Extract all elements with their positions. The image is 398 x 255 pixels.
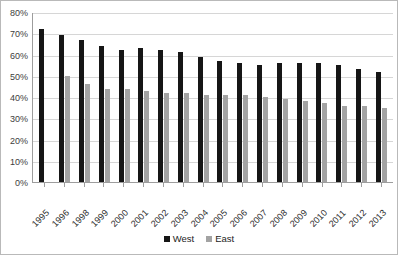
bar-group bbox=[55, 13, 75, 182]
x-axis-tick bbox=[232, 183, 252, 188]
x-axis-tick bbox=[74, 183, 94, 188]
y-axis-tick-label: 60% bbox=[10, 51, 28, 60]
plot-area bbox=[32, 13, 393, 183]
bar-west bbox=[316, 63, 321, 182]
chart-container: 80%70%60%50%40%30%20%10%0% 1995199619981… bbox=[0, 0, 398, 255]
x-axis-tick bbox=[113, 183, 133, 188]
bar-east bbox=[105, 89, 110, 183]
x-axis-tick bbox=[351, 183, 371, 188]
x-axis-ticks bbox=[32, 183, 393, 188]
bar-group bbox=[371, 13, 391, 182]
x-axis-tick bbox=[331, 183, 351, 188]
legend-swatch-east bbox=[206, 236, 212, 242]
bar-west bbox=[217, 61, 222, 182]
bar-group bbox=[332, 13, 352, 182]
y-axis-tick-label: 20% bbox=[10, 136, 28, 145]
bar-west bbox=[79, 40, 84, 182]
bar-group bbox=[114, 13, 134, 182]
legend-swatch-west bbox=[164, 236, 170, 242]
y-axis-labels: 80%70%60%50%40%30%20%10%0% bbox=[1, 13, 31, 188]
legend-entry-west[interactable]: West bbox=[164, 233, 194, 244]
x-axis-tick bbox=[371, 183, 391, 188]
bar-east bbox=[85, 84, 90, 182]
bar-east bbox=[125, 89, 130, 183]
bar-east bbox=[263, 97, 268, 182]
bar-west bbox=[356, 69, 361, 182]
x-axis-tick bbox=[153, 183, 173, 188]
bar-group bbox=[154, 13, 174, 182]
x-axis-tick-label: 1995 bbox=[30, 208, 51, 229]
chart-title bbox=[1, 0, 398, 2]
bar-group bbox=[272, 13, 292, 182]
bar-group bbox=[233, 13, 253, 182]
bar-east bbox=[382, 108, 387, 182]
bar-west bbox=[237, 63, 242, 182]
x-axis-tick bbox=[193, 183, 213, 188]
bar-east bbox=[342, 106, 347, 183]
bar-west bbox=[99, 46, 104, 182]
legend-entry-east[interactable]: East bbox=[206, 233, 234, 244]
bar-east bbox=[283, 99, 288, 182]
x-axis-tick bbox=[272, 183, 292, 188]
x-axis-tick bbox=[312, 183, 332, 188]
x-axis-tick bbox=[173, 183, 193, 188]
x-axis-tick bbox=[133, 183, 153, 188]
bar-west bbox=[138, 48, 143, 182]
bar-east bbox=[164, 93, 169, 182]
x-axis-tick bbox=[292, 183, 312, 188]
bars-layer bbox=[33, 13, 393, 182]
bar-east bbox=[322, 103, 327, 182]
x-axis-tick bbox=[54, 183, 74, 188]
bar-west bbox=[257, 65, 262, 182]
bar-west bbox=[336, 65, 341, 182]
bar-east bbox=[303, 101, 308, 182]
bar-group bbox=[173, 13, 193, 182]
y-axis-tick-label: 80% bbox=[10, 9, 28, 18]
bar-group bbox=[134, 13, 154, 182]
bar-group bbox=[94, 13, 114, 182]
bar-west bbox=[277, 63, 282, 182]
bar-east bbox=[243, 95, 248, 182]
legend-label: West bbox=[173, 233, 194, 244]
bar-group bbox=[35, 13, 55, 182]
bar-west bbox=[297, 63, 302, 182]
bar-west bbox=[119, 50, 124, 182]
legend-label: East bbox=[215, 233, 234, 244]
bar-east bbox=[65, 76, 70, 182]
bar-east bbox=[204, 95, 209, 182]
x-axis-tick bbox=[212, 183, 232, 188]
bar-west bbox=[178, 52, 183, 182]
y-axis-tick-label: 30% bbox=[10, 115, 28, 124]
y-axis-tick-label: 40% bbox=[10, 94, 28, 103]
bar-west bbox=[59, 35, 64, 182]
y-axis-tick-label: 70% bbox=[10, 30, 28, 39]
x-axis-tick bbox=[252, 183, 272, 188]
bar-east bbox=[144, 91, 149, 182]
bar-west bbox=[198, 57, 203, 182]
chart-legend: WestEast bbox=[1, 233, 397, 244]
bar-west bbox=[39, 29, 44, 182]
bar-east bbox=[362, 106, 367, 183]
bar-group bbox=[292, 13, 312, 182]
bar-group bbox=[253, 13, 273, 182]
x-axis-tick bbox=[93, 183, 113, 188]
bar-east bbox=[184, 93, 189, 182]
bar-group bbox=[75, 13, 95, 182]
bar-group bbox=[352, 13, 372, 182]
bar-group bbox=[312, 13, 332, 182]
y-axis-tick-label: 10% bbox=[10, 157, 28, 166]
bar-east bbox=[223, 95, 228, 182]
plot-wrapper: 80%70%60%50%40%30%20%10%0% 1995199619981… bbox=[1, 13, 398, 188]
y-axis-tick-label: 0% bbox=[15, 179, 28, 188]
bar-group bbox=[213, 13, 233, 182]
bar-group bbox=[193, 13, 213, 182]
bar-west bbox=[376, 72, 381, 183]
y-axis-tick-label: 50% bbox=[10, 72, 28, 81]
x-axis-tick bbox=[34, 183, 54, 188]
bar-west bbox=[158, 50, 163, 182]
